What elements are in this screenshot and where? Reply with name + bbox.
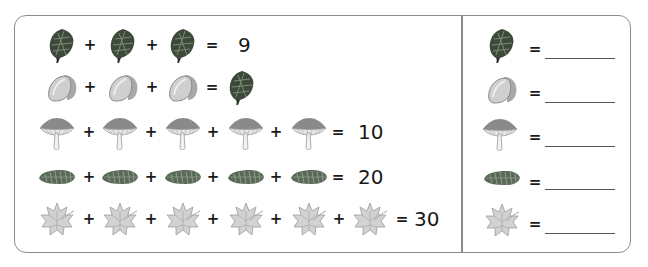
row-result: 10 bbox=[358, 112, 383, 152]
equals-sign: = bbox=[529, 73, 542, 113]
section-divider bbox=[461, 15, 463, 253]
plus-sign: + bbox=[207, 157, 220, 197]
mushroom-icon bbox=[289, 112, 329, 152]
mushroom-icon bbox=[480, 113, 520, 153]
answer-blank[interactable] bbox=[545, 233, 615, 234]
pinecone-icon bbox=[163, 25, 203, 65]
pinecone-icon bbox=[42, 25, 82, 65]
maple-leaf-icon bbox=[350, 199, 390, 239]
maple-leaf-icon bbox=[163, 199, 203, 239]
plus-sign: + bbox=[84, 67, 97, 107]
maple-leaf-icon bbox=[482, 200, 522, 240]
plus-sign: + bbox=[83, 112, 96, 152]
pinecone-icon bbox=[482, 25, 522, 65]
mushroom-icon bbox=[163, 112, 203, 152]
mushroom-icon bbox=[226, 112, 266, 152]
maple-leaf-icon bbox=[289, 199, 329, 239]
spruce-cone-icon bbox=[289, 157, 329, 197]
plus-sign: + bbox=[145, 112, 158, 152]
spruce-cone-icon bbox=[37, 157, 77, 197]
spruce-cone-icon bbox=[163, 157, 203, 197]
maple-leaf-icon bbox=[226, 199, 266, 239]
plus-sign: + bbox=[83, 199, 96, 239]
equation-row-1: + + = 9 bbox=[0, 25, 460, 65]
maple-leaf-icon bbox=[100, 199, 140, 239]
answer-blank[interactable] bbox=[545, 189, 615, 190]
equals-sign: = bbox=[206, 25, 219, 65]
answer-blank[interactable] bbox=[545, 102, 615, 103]
equals-sign: = bbox=[529, 162, 542, 202]
answer-blank[interactable] bbox=[545, 146, 615, 147]
equals-sign: = bbox=[206, 67, 219, 107]
equation-row-3: + + + + = 10 bbox=[0, 112, 460, 152]
plus-sign: + bbox=[84, 25, 97, 65]
spruce-cone-icon bbox=[226, 157, 266, 197]
plus-sign: + bbox=[207, 112, 220, 152]
pinecone-icon bbox=[103, 25, 143, 65]
equals-sign: = bbox=[529, 29, 542, 69]
equation-row-4: + + + + = 20 bbox=[0, 157, 460, 197]
mushroom-icon bbox=[100, 112, 140, 152]
equation-row-5: + + + + + = 30 bbox=[0, 199, 460, 239]
plus-sign: + bbox=[270, 199, 283, 239]
equals-sign: = bbox=[332, 112, 345, 152]
equals-sign: = bbox=[529, 204, 542, 244]
plus-sign: + bbox=[333, 199, 346, 239]
pinecone-icon bbox=[222, 67, 262, 107]
spruce-cone-icon bbox=[100, 157, 140, 197]
row-result: 20 bbox=[358, 157, 383, 197]
plus-sign: + bbox=[146, 67, 159, 107]
acorn-icon bbox=[103, 67, 143, 107]
acorn-icon bbox=[482, 69, 522, 109]
spruce-cone-icon bbox=[482, 158, 522, 198]
equals-sign: = bbox=[332, 157, 345, 197]
maple-leaf-icon bbox=[37, 199, 77, 239]
plus-sign: + bbox=[145, 157, 158, 197]
answer-blank[interactable] bbox=[545, 58, 615, 59]
plus-sign: + bbox=[207, 199, 220, 239]
equals-sign: = bbox=[396, 199, 409, 239]
plus-sign: + bbox=[145, 199, 158, 239]
row-result: 9 bbox=[238, 25, 251, 65]
acorn-icon bbox=[163, 67, 203, 107]
plus-sign: + bbox=[270, 112, 283, 152]
equals-sign: = bbox=[529, 117, 542, 157]
plus-sign: + bbox=[146, 25, 159, 65]
plus-sign: + bbox=[83, 157, 96, 197]
acorn-icon bbox=[42, 67, 82, 107]
mushroom-icon bbox=[37, 112, 77, 152]
row-result: 30 bbox=[414, 199, 439, 239]
equation-row-2: + + = bbox=[0, 67, 460, 107]
plus-sign: + bbox=[270, 157, 283, 197]
